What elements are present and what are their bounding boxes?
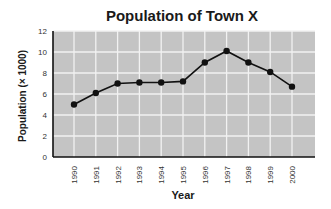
y-tick-label: 12 (38, 27, 47, 36)
x-tick-label: 1991 (92, 165, 101, 183)
x-tick-label: 1996 (201, 165, 210, 183)
y-axis-ticks: 024681012 (38, 27, 47, 162)
data-point (180, 78, 186, 84)
y-tick-label: 4 (43, 111, 48, 120)
data-point (267, 69, 273, 75)
x-tick-label: 1995 (179, 165, 188, 183)
y-tick-label: 10 (38, 48, 47, 57)
x-tick-label: 1999 (266, 165, 275, 183)
y-tick-label: 0 (43, 153, 48, 162)
y-tick-label: 6 (43, 90, 48, 99)
data-point (71, 101, 77, 107)
data-point (202, 59, 208, 65)
x-tick-label: 1994 (157, 165, 166, 183)
x-tick-label: 1990 (70, 165, 79, 183)
y-tick-label: 8 (43, 69, 48, 78)
data-point (136, 79, 142, 85)
x-tick-label: 1993 (135, 165, 144, 183)
data-point (223, 48, 229, 54)
x-tick-label: 2000 (288, 165, 297, 183)
data-point (158, 79, 164, 85)
x-tick-label: 1992 (114, 165, 123, 183)
x-axis-ticks: 1990199119921993199419951996199719981999… (70, 165, 297, 183)
y-tick-label: 2 (43, 132, 48, 141)
data-point (245, 59, 251, 65)
x-tick-label: 1997 (223, 165, 232, 183)
data-point (114, 80, 120, 86)
data-point (289, 83, 295, 89)
x-tick-label: 1998 (244, 165, 253, 183)
data-point (93, 90, 99, 96)
line-chart: 024681012 199019911992199319941995199619… (0, 0, 331, 209)
